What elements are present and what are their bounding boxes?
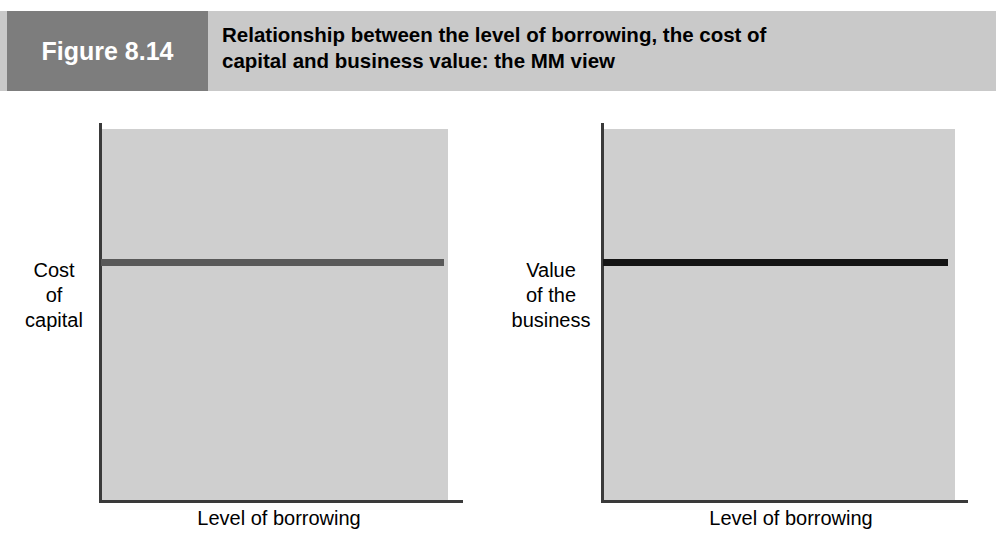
x-axis-value-of-the-business	[601, 500, 968, 503]
plot-area-value-of-the-business	[603, 129, 955, 500]
x-axis-label-value-of-the-business: Level of borrowing	[680, 507, 902, 530]
figure-number-label: Figure 8.14	[42, 37, 174, 66]
figure-number-badge: Figure 8.14	[7, 11, 208, 91]
y-axis-label-line-3: capital	[12, 308, 96, 333]
plot-area-cost-of-capital	[101, 129, 448, 500]
figure-container: Figure 8.14 Relationship between the lev…	[0, 0, 996, 553]
series-line-cost-of-capital	[101, 259, 444, 266]
y-axis-label-line-1: Value	[504, 258, 598, 283]
x-axis-label-cost-of-capital: Level of borrowing	[168, 507, 390, 530]
figure-title: Relationship between the level of borrow…	[222, 22, 962, 74]
chart-value-of-the-business: Value of the business Level of borrowing	[500, 91, 996, 553]
y-axis-label-cost-of-capital: Cost of capital	[12, 258, 96, 333]
figure-title-line-2: capital and business value: the MM view	[222, 48, 962, 74]
chart-cost-of-capital: Cost of capital Level of borrowing	[0, 91, 500, 553]
y-axis-label-line-2: of the	[504, 283, 598, 308]
figure-title-line-1: Relationship between the level of borrow…	[222, 22, 962, 48]
y-axis-label-line-3: business	[504, 308, 598, 333]
y-axis-cost-of-capital	[99, 123, 102, 503]
series-line-value-of-the-business	[603, 259, 948, 266]
x-axis-cost-of-capital	[99, 500, 463, 503]
y-axis-label-value-of-the-business: Value of the business	[504, 258, 598, 333]
y-axis-label-line-2: of	[12, 283, 96, 308]
header-top-margin	[0, 0, 996, 11]
y-axis-value-of-the-business	[601, 123, 604, 503]
charts-area: Cost of capital Level of borrowing Value…	[0, 91, 996, 553]
y-axis-label-line-1: Cost	[12, 258, 96, 283]
